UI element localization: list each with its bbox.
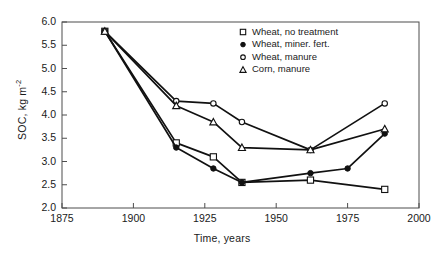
series-wheat-miner-fert [102, 29, 387, 186]
x-tick-label: 1975 [323, 212, 373, 224]
legend-label-1: Wheat, no treatment [252, 26, 338, 37]
x-tick-label: 1900 [108, 212, 158, 224]
legend-marker-2 [241, 42, 246, 47]
soc-time-series-chart: SOC, kg m-2 Time, years 2.02.53.03.54.04… [0, 0, 444, 259]
y-tick-label: 3.5 [14, 131, 56, 143]
series-wheat-manure [102, 29, 387, 153]
x-axis-title: Time, years [0, 232, 444, 244]
y-tick-label: 6.0 [14, 15, 56, 27]
y-tick-label: 4.0 [14, 108, 56, 120]
legend-label-2: Wheat, miner. fert. [252, 38, 330, 49]
legend-marker-1 [240, 29, 245, 34]
y-tick-label: 4.5 [14, 85, 56, 97]
legend-marker-4 [240, 67, 246, 73]
legend-label-4: Corn, manure [252, 63, 310, 74]
x-tick-label: 2000 [394, 212, 444, 224]
legend-label-3: Wheat, manure [252, 51, 317, 62]
y-tick-label: 5.0 [14, 62, 56, 74]
y-tick-label: 3.0 [14, 155, 56, 167]
x-tick-label: 1875 [37, 212, 87, 224]
x-tick-label: 1950 [251, 212, 301, 224]
y-tick-label: 5.5 [14, 38, 56, 50]
legend-marker-3 [241, 55, 246, 60]
x-tick-label: 1925 [180, 212, 230, 224]
y-tick-label: 2.5 [14, 178, 56, 190]
